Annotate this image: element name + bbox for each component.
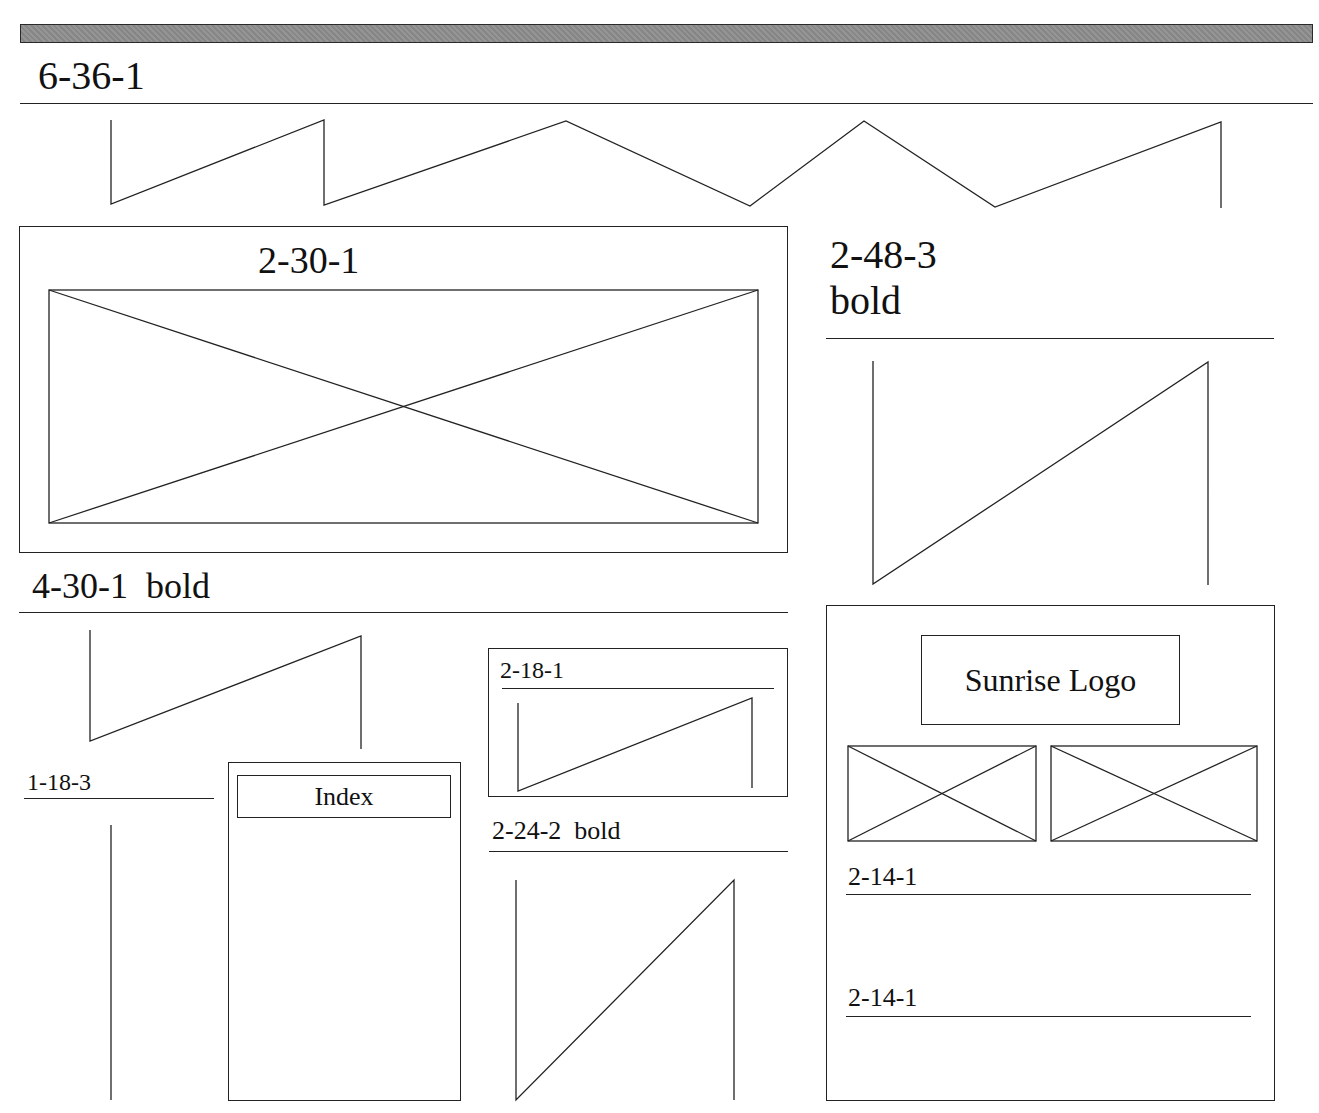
- mid-heading-rule: [489, 851, 788, 852]
- small-panel-label: 2-18-1: [500, 658, 564, 682]
- zigzag-text-placeholder: [111, 120, 1221, 208]
- text-placeholder-right: [873, 361, 1208, 585]
- small-panel-rule: [502, 688, 774, 689]
- left-heading: 4-30-1 bold: [32, 568, 210, 604]
- logo-panel-line-rule: [846, 1016, 1251, 1017]
- text-placeholder-mid: [516, 880, 734, 1100]
- image-panel-label: 2-30-1: [258, 241, 359, 279]
- small-heading-rule: [24, 798, 214, 799]
- mid-heading: 2-24-2 bold: [492, 818, 621, 844]
- left-heading-rule: [19, 612, 788, 613]
- image-panel: [19, 226, 788, 553]
- text-placeholder-left: [90, 630, 361, 749]
- mid-heading-suffix: bold: [574, 816, 620, 845]
- sunrise-logo[interactable]: Sunrise Logo: [921, 635, 1180, 725]
- logo-panel-line-label: 2-14-1: [848, 864, 917, 890]
- logo-label: Sunrise Logo: [965, 662, 1137, 699]
- small-heading: 1-18-3: [27, 770, 91, 794]
- logo-panel-line-rule: [846, 894, 1251, 895]
- logo-panel-line-label: 2-14-1: [848, 985, 917, 1011]
- left-heading-suffix: bold: [146, 566, 210, 606]
- left-heading-label: 4-30-1: [32, 566, 128, 606]
- index-label: Index: [314, 782, 373, 812]
- right-heading-line2: bold: [830, 281, 901, 321]
- right-heading-line1: 2-48-3: [830, 235, 937, 275]
- right-heading-rule: [826, 338, 1274, 339]
- index-button[interactable]: Index: [237, 775, 451, 818]
- mid-heading-label: 2-24-2: [492, 816, 561, 845]
